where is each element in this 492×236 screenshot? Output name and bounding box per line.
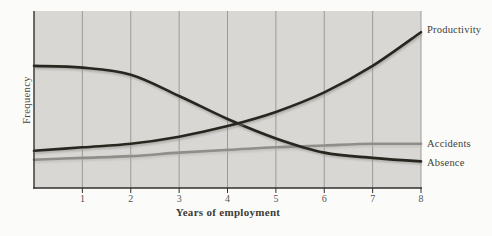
y-axis-label: Frequency bbox=[21, 60, 35, 140]
x-axis-label: Years of employment bbox=[128, 206, 328, 222]
x-tick-label-4: 4 bbox=[218, 193, 238, 204]
series-label-accidents: Accidents bbox=[427, 138, 489, 152]
x-tick-label-1: 1 bbox=[72, 193, 92, 204]
x-tick-label-3: 3 bbox=[169, 193, 189, 204]
x-tick-label-8: 8 bbox=[411, 193, 431, 204]
series-label-productivity: Productivity bbox=[427, 24, 489, 38]
series-label-absence: Absence bbox=[427, 157, 489, 171]
x-tick-label-6: 6 bbox=[314, 193, 334, 204]
x-tick-label-5: 5 bbox=[266, 193, 286, 204]
x-tick-label-7: 7 bbox=[363, 193, 383, 204]
x-tick-label-2: 2 bbox=[121, 193, 141, 204]
chart-canvas: Frequency Years of employment Productivi… bbox=[0, 0, 492, 236]
